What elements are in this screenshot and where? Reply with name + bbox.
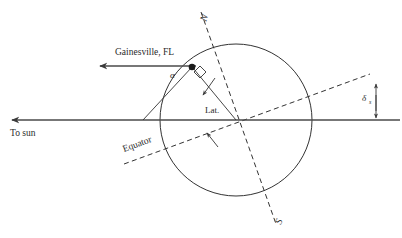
latitude-label: Lat.	[205, 105, 219, 115]
diagram-canvas: Gainesville, FL α To sun Lat. Equator N …	[0, 0, 402, 238]
equator-plane-line	[124, 74, 370, 164]
site-horizon-line	[143, 67, 192, 120]
to-sun-label: To sun	[10, 128, 36, 138]
solar-geometry-diagram: Gainesville, FL α To sun Lat. Equator N …	[0, 0, 402, 238]
alpha-angle-label: α	[170, 70, 175, 80]
declination-label: δ	[362, 93, 367, 103]
north-pole-label: N	[197, 11, 210, 23]
gainesville-label: Gainesville, FL	[115, 47, 174, 57]
gainesville-point-marker	[189, 64, 196, 71]
equator-label: Equator	[121, 134, 153, 154]
south-pole-label: S	[273, 217, 285, 225]
declination-subscript-label: s	[369, 99, 372, 105]
latitude-angle-arrow-lower	[207, 133, 218, 147]
